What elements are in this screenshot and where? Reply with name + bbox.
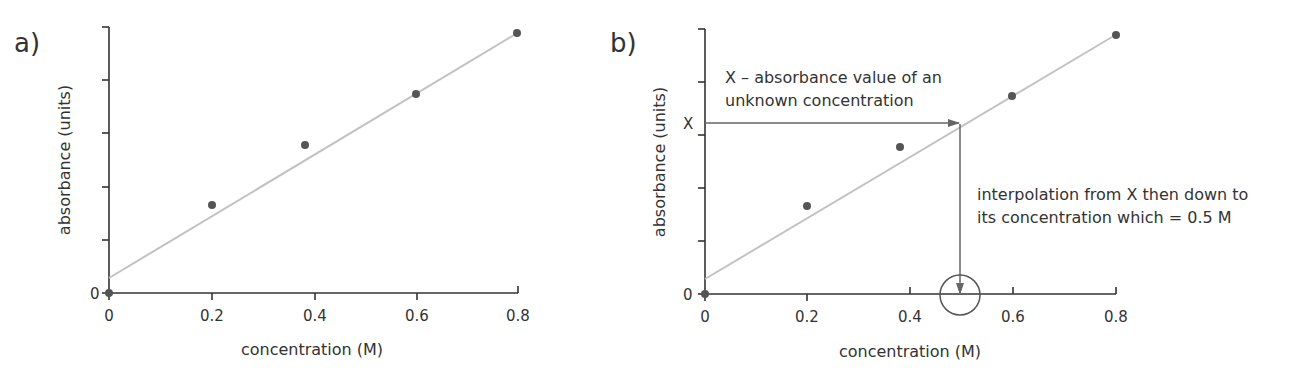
panel-label-b: b) [610,28,637,58]
y-axis-b [698,29,705,294]
y-zero-label-a: 0 [90,285,100,303]
x-tick-label: 0.8 [506,307,530,325]
y-axis-label-b: absorbance (units) [650,87,669,237]
x-tick-label: 0.4 [898,308,922,326]
x-tick-label: 0.6 [405,307,429,325]
annotation-x-line1: X – absorbance value of an [725,68,942,87]
x-tick-label: 0.6 [1001,308,1025,326]
panel-label-a: a) [14,28,40,58]
x-axis-label-a: concentration (M) [241,340,383,359]
x-tick-label: 0 [104,307,114,325]
annotation-x-line2: unknown concentration [725,91,914,110]
fit-line-a [109,35,514,278]
x-marker-label: X [683,115,693,133]
y-axis-label-a: absorbance (units) [55,85,74,235]
x-tick-label: 0.8 [1104,308,1128,326]
annotation-interp-line2: its concentration which = 0.5 M [977,208,1232,227]
chart-b: b) 0 X 0 0.2 0.4 0.6 0.8 concentration (… [610,28,1248,361]
annotation-interp-line1: interpolation from X then down to [977,185,1248,204]
y-axis-a [102,27,109,293]
figure: a) 0 0 0.2 0.4 0.6 0.8 concentration (M)… [0,0,1297,383]
x-tick-label: 0.2 [200,307,224,325]
x-tick-label: 0.4 [303,307,327,325]
x-tick-label: 0.2 [795,308,819,326]
y-zero-label-b: 0 [683,286,693,304]
x-axis-a [109,286,518,300]
chart-a: a) 0 0 0.2 0.4 0.6 0.8 concentration (M)… [14,27,530,359]
x-axis-b [705,287,1116,301]
x-tick-label: 0 [700,308,710,326]
x-axis-label-b: concentration (M) [839,342,981,361]
